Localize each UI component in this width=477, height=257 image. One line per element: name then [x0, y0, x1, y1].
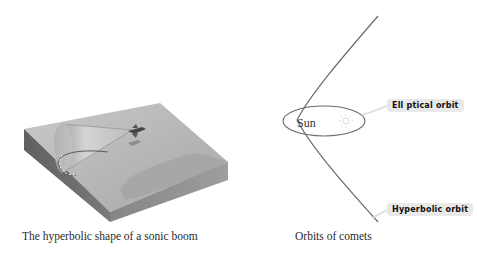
elliptical-orbit-label: Ell ptical orbit [387, 99, 464, 112]
orbits-diagram [260, 0, 477, 257]
caption-comet-orbits: Orbits of comets [295, 230, 372, 242]
caption-sonic-boom: The hyperbolic shape of a sonic boom [22, 230, 198, 242]
comet-orbits-figure: Sun Ell ptical orbit Hyperbolic orbit Or… [260, 0, 477, 257]
sun-label: Sun [297, 116, 316, 131]
sun-icon [339, 114, 353, 128]
sonic-boom-figure: The hyperbolic shape of a sonic boom [0, 0, 260, 257]
sonic-boom-illustration [0, 0, 260, 257]
hyperbolic-leader-line [372, 210, 387, 218]
hyperbolic-orbit-label: Hyperbolic orbit [387, 203, 473, 216]
elliptical-leader-line [363, 106, 387, 115]
cone-base [54, 123, 72, 173]
